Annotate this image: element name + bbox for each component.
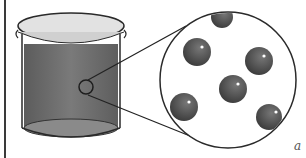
particle [211,6,233,28]
magnifier-circle [160,6,296,148]
figure-label: a [294,139,301,153]
particle [183,38,211,66]
particle [219,75,247,103]
particle [245,47,273,75]
beaker [16,13,126,137]
beaker-diagram [0,0,306,158]
particle [170,93,198,121]
